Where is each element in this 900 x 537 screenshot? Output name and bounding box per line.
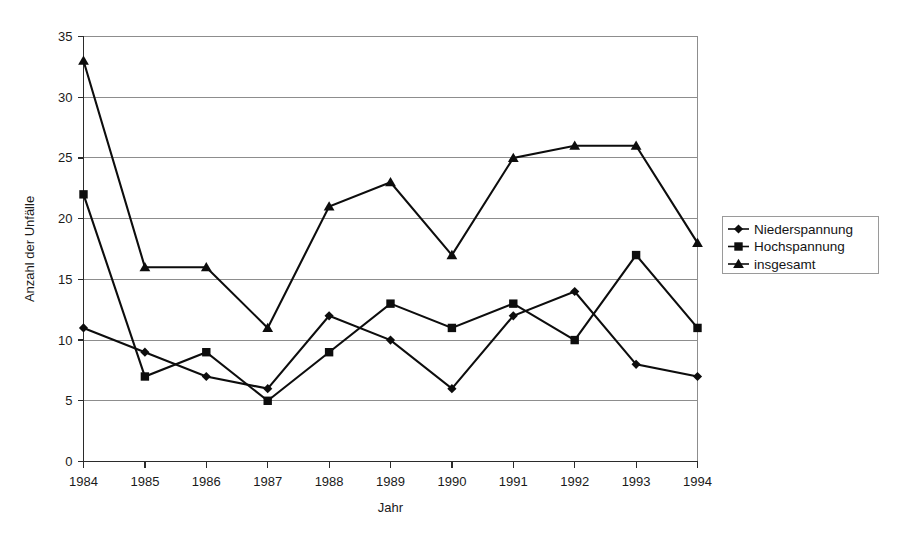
y-tick-label: 5 (65, 393, 72, 408)
legend-label: Hochspannung (754, 239, 845, 254)
x-tick-label: 1987 (253, 474, 282, 489)
x-tick-label: 1994 (683, 474, 712, 489)
x-tick-label: 1984 (69, 474, 98, 489)
y-axis-title: Anzahl der Unfälle (22, 196, 37, 302)
x-tick-label: 1986 (192, 474, 221, 489)
square-marker-icon (693, 324, 701, 332)
square-marker-icon (325, 348, 333, 356)
square-marker-icon (734, 242, 742, 250)
square-marker-icon (571, 336, 579, 344)
x-tick-label: 1993 (622, 474, 651, 489)
square-marker-icon (264, 397, 272, 405)
y-tick-label: 15 (58, 272, 72, 287)
x-axis-title: Jahr (378, 500, 404, 515)
x-tick-label: 1989 (376, 474, 405, 489)
square-marker-icon (79, 190, 87, 198)
x-tick-label: 1988 (315, 474, 344, 489)
square-marker-icon (141, 372, 149, 380)
y-tick-label: 20 (58, 211, 72, 226)
chart-canvas: 05101520253035 1984198519861987198819891… (0, 0, 900, 537)
x-tick-label: 1992 (560, 474, 589, 489)
square-marker-icon (448, 324, 456, 332)
y-tick-label: 30 (58, 90, 72, 105)
y-tick-label: 10 (58, 333, 72, 348)
y-tick-label: 25 (58, 150, 72, 165)
legend-label: insgesamt (754, 257, 816, 272)
legend-label: Niederspannung (754, 222, 853, 237)
square-marker-icon (509, 299, 517, 307)
y-tick-label: 35 (58, 29, 72, 44)
line-chart: 05101520253035 1984198519861987198819891… (0, 0, 900, 537)
x-tick-label: 1990 (437, 474, 466, 489)
chart-legend: NiederspannungHochspannunginsgesamt (722, 216, 878, 273)
square-marker-icon (202, 348, 210, 356)
square-marker-icon (386, 299, 394, 307)
square-marker-icon (632, 251, 640, 259)
x-tick-label: 1985 (130, 474, 159, 489)
y-tick-label: 0 (65, 454, 72, 469)
x-tick-label: 1991 (499, 474, 528, 489)
